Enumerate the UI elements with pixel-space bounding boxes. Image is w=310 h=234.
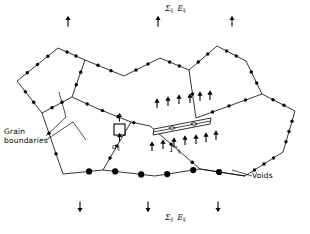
local-stress-sub: ij [117, 145, 119, 151]
gb-node [24, 90, 27, 93]
gb-node [168, 60, 171, 63]
gb-node [50, 106, 53, 109]
gb-edge-12 [217, 46, 246, 61]
gb-node [74, 54, 77, 57]
grain-boundary-network [17, 46, 295, 176]
grain-boundaries-leader-1 [46, 92, 66, 136]
gb-edge-3 [72, 60, 85, 97]
gb-node [134, 68, 137, 71]
gb-node [146, 62, 149, 65]
top-stress-sub: ij [170, 7, 172, 13]
gb-node [284, 140, 287, 143]
gb-node [271, 98, 274, 101]
gb-node [287, 130, 290, 133]
grain-boundaries-line2: boundaries [4, 137, 48, 146]
voids-label: Voids [252, 172, 273, 181]
void-marker [216, 169, 222, 175]
gb-node [54, 152, 57, 155]
grain-boundaries-label: Grain boundaries [4, 128, 48, 145]
leader-lines [46, 92, 252, 176]
voids-leader [232, 170, 252, 176]
gb-node [255, 81, 258, 84]
facet-band-label: Γ*ij [170, 146, 180, 155]
gb-edge-8 [160, 58, 189, 70]
gb-edge-6 [85, 60, 124, 76]
top-load-label: Σij Eij [165, 5, 185, 14]
diagram-svg [0, 0, 310, 234]
bottom-stress-sub: ij [170, 216, 172, 222]
top-strain-sub: ij [183, 7, 185, 13]
gb-node [36, 63, 39, 66]
gb-node [75, 83, 78, 86]
gb-node [197, 60, 200, 63]
void-marker [164, 171, 170, 177]
gb-node [101, 109, 104, 112]
facet-sub: ij [178, 148, 180, 154]
rve-square-group [114, 124, 125, 135]
gb-node [26, 71, 29, 74]
gb-node [132, 121, 135, 124]
gb-node [244, 98, 247, 101]
gb-edge-7 [124, 58, 160, 76]
gb-node [178, 64, 181, 67]
bottom-load-label: Σij Eij [165, 214, 185, 223]
gb-node [108, 156, 111, 159]
gb-node [250, 70, 253, 73]
gb-node [46, 55, 49, 58]
gb-node [227, 104, 230, 107]
cavitating-facet [153, 118, 211, 135]
grain-boundaries-leader-2 [46, 122, 86, 140]
gb-edge-18 [150, 126, 245, 176]
gb-node [191, 92, 194, 95]
gb-node [211, 110, 214, 113]
gb-node [206, 52, 209, 55]
gb-node [282, 104, 285, 107]
gb-node [191, 161, 194, 164]
gb-node [32, 101, 35, 104]
gb-node [235, 54, 238, 57]
gb-node [79, 71, 82, 74]
gb-edge-13 [246, 61, 262, 94]
local-stress-label: σij [112, 143, 119, 152]
gb-edge-2 [58, 48, 85, 60]
gb-edge-5 [17, 81, 42, 113]
gb-edge-10 [72, 97, 150, 126]
gb-node [96, 64, 99, 67]
gb-edge-15 [262, 94, 295, 111]
void-marker [86, 168, 92, 174]
facet-band-midline [154, 121, 211, 132]
void-marker [190, 167, 196, 173]
gb-node [262, 162, 265, 165]
gb-node [109, 69, 112, 72]
void-marker [112, 168, 118, 174]
gb-node [86, 102, 89, 105]
bottom-strain-sub: ij [183, 216, 185, 222]
gb-edge-11 [189, 46, 217, 70]
gb-node [290, 120, 293, 123]
gb-node [272, 156, 275, 159]
rve-square [114, 124, 125, 135]
gb-node [65, 50, 68, 53]
gb-edge-4 [42, 97, 72, 113]
gb-node [225, 49, 228, 52]
figure-canvas: Σij Eij Σij Eij Grain boundaries Voids Γ… [0, 0, 310, 234]
void-marker [138, 171, 144, 177]
